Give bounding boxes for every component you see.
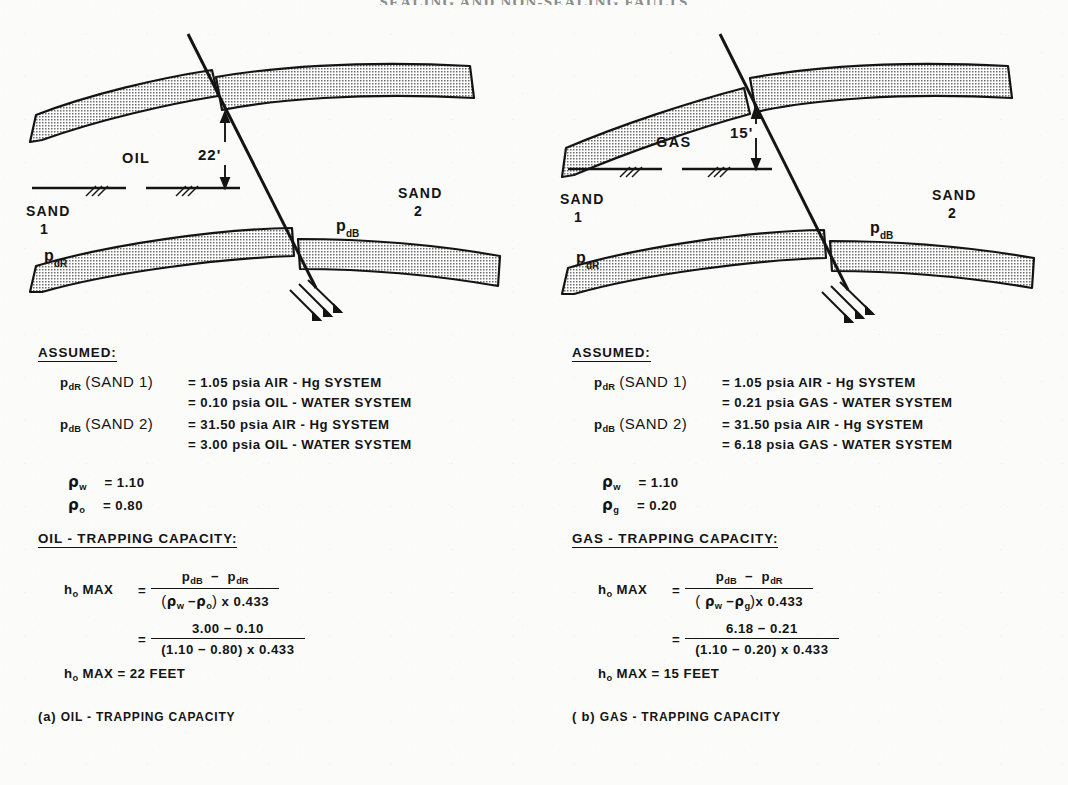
rho-symbol: ρ (602, 496, 613, 514)
cross-section-diagram-oil: OIL 22' SAND 1 SAND 2 p dR p dB (0, 20, 534, 340)
lower-bed-left (30, 228, 294, 292)
density-row: ρg= 0.20 (602, 494, 1068, 517)
assumed-row-cont: = 3.00 psia OIL - WATER SYSTEM (60, 436, 534, 455)
upper-bed-right (216, 64, 474, 110)
assumed-heading: ASSUMED: (38, 345, 117, 362)
equation-label: ho MAX (64, 582, 138, 599)
numeric-equation: = 3.00 − 0.10 (1.10 − 0.80) x 0.433 (64, 621, 534, 657)
panel-oil-trapping: OIL 22' SAND 1 SAND 2 p dR p dB ASSUMED:… (0, 0, 534, 785)
pressure-label-pdb: p dB (870, 219, 893, 241)
density-rows: ρw= 1.10 ρg= 0.20 (602, 471, 1068, 517)
sand-1-number: 1 (40, 221, 48, 237)
symbolic-fraction: pdB − pdR ( ρw −ρg)x 0.433 (685, 569, 813, 611)
density-value: = 1.10 (638, 475, 678, 490)
rho-symbol: ρ (68, 496, 79, 514)
assumed-symbol: pdR (SAND 1) (60, 371, 188, 394)
equals-sign: = (672, 632, 680, 647)
assumed-row: pdR (SAND 1) = 1.05 psia AIR - Hg SYSTEM (60, 371, 534, 394)
assumed-row-cont: = 0.21 psia GAS - WATER SYSTEM (594, 394, 1068, 413)
assumed-value-cont: = 3.00 psia OIL - WATER SYSTEM (188, 436, 412, 455)
svg-text:p: p (870, 219, 880, 236)
sand-2-number: 2 (948, 205, 956, 221)
rho-subscript: w (613, 482, 620, 492)
assumed-row: pdB (SAND 2) = 31.50 psia AIR - Hg SYSTE… (594, 413, 1068, 436)
equation-result: ho MAX = 15 FEET (598, 666, 1068, 683)
assumed-heading: ASSUMED: (572, 345, 651, 362)
rho-symbol: ρ (68, 473, 79, 491)
fraction-denominator: (1.10 − 0.80) x 0.433 (151, 638, 304, 657)
svg-text:p: p (576, 249, 586, 266)
lower-bed-right (830, 241, 1034, 288)
assumed-row-cont: = 6.18 psia GAS - WATER SYSTEM (594, 436, 1068, 455)
fraction-denominator: ( ρw −ρg)x 0.433 (685, 588, 813, 611)
equation-result: ho MAX = 22 FEET (64, 666, 534, 683)
numeric-fraction: 6.18 − 0.21 (1.10 − 0.20) x 0.433 (685, 621, 838, 657)
sand-2-label: SAND (932, 187, 976, 203)
panel-gas-trapping: GAS 15' SAND 1 SAND 2 p dR p dB ASSUMED:… (534, 0, 1068, 785)
assumed-rows: pdR (SAND 1) = 1.05 psia AIR - Hg SYSTEM… (60, 371, 534, 455)
equation-label: ho MAX (598, 582, 672, 599)
capacity-heading: OIL - TRAPPING CAPACITY: (38, 531, 237, 548)
density-value: = 0.80 (103, 498, 143, 513)
symbolic-fraction: pdB − pdR (ρw −ρo) x 0.433 (151, 569, 279, 611)
svg-text:dB: dB (346, 228, 359, 239)
svg-text:p: p (44, 247, 54, 264)
lower-bed-left (562, 230, 826, 294)
assumed-value: = 31.50 psia AIR - Hg SYSTEM (722, 416, 924, 435)
oil-text-block: ASSUMED: pdR (SAND 1) = 1.05 psia AIR - … (38, 345, 534, 724)
assumed-value: = 1.05 psia AIR - Hg SYSTEM (188, 374, 382, 393)
fraction-numerator: pdB − pdR (172, 569, 259, 588)
upper-bed-right (750, 64, 1012, 112)
density-row: ρw= 1.10 (68, 471, 534, 494)
gas-text-block: ASSUMED: pdR (SAND 1) = 1.05 psia AIR - … (572, 345, 1068, 724)
density-value: = 1.10 (104, 475, 144, 490)
figure-caption: ( b) GAS - TRAPPING CAPACITY (572, 709, 1068, 724)
sand-1-label: SAND (560, 191, 604, 207)
pressure-label-pdb: p dB (336, 217, 359, 239)
numeric-fraction: 3.00 − 0.10 (1.10 − 0.80) x 0.433 (151, 621, 304, 657)
density-value: = 0.20 (637, 498, 677, 513)
equals-sign: = (138, 632, 146, 647)
fault-slip-arrows (822, 282, 873, 322)
equals-sign: = (138, 583, 146, 598)
sand-1-number: 1 (574, 209, 582, 225)
svg-text:dR: dR (54, 258, 68, 269)
rho-subscript: w (79, 482, 86, 492)
assumed-value-cont: = 0.21 psia GAS - WATER SYSTEM (722, 394, 953, 413)
assumed-symbol: pdB (SAND 2) (60, 413, 188, 436)
assumed-row-cont: = 0.10 psia OIL - WATER SYSTEM (60, 394, 534, 413)
caption-text: GAS - TRAPPING CAPACITY (600, 710, 781, 724)
density-row: ρo= 0.80 (68, 494, 534, 517)
throw-label: 22' (198, 146, 221, 163)
equation-block: ho MAX = pdB − pdR (ρw −ρo) x 0.433 = 3.… (64, 569, 534, 683)
sand-1-label: SAND (26, 203, 70, 219)
capacity-heading: GAS - TRAPPING CAPACITY: (572, 531, 778, 548)
caption-text: OIL - TRAPPING CAPACITY (61, 710, 236, 724)
fluid-label: GAS (656, 134, 692, 150)
figure-caption: (a) OIL - TRAPPING CAPACITY (38, 709, 534, 724)
fraction-denominator: (ρw −ρo) x 0.433 (151, 588, 279, 611)
assumed-symbol: pdR (SAND 1) (594, 371, 722, 394)
fraction-numerator: 6.18 − 0.21 (716, 621, 808, 638)
svg-text:p: p (336, 217, 346, 234)
equals-sign: = (672, 583, 680, 598)
rho-subscript: g (613, 505, 619, 515)
fluid-label: OIL (122, 150, 150, 166)
symbolic-equation: ho MAX = pdB − pdR (ρw −ρo) x 0.433 (64, 569, 534, 611)
numeric-equation: = 6.18 − 0.21 (1.10 − 0.20) x 0.433 (598, 621, 1068, 657)
throw-label: 15' (730, 124, 753, 141)
rho-subscript: o (79, 505, 85, 515)
svg-text:dB: dB (880, 230, 893, 241)
assumed-row: pdR (SAND 1) = 1.05 psia AIR - Hg SYSTEM (594, 371, 1068, 394)
assumed-value-cont: = 0.10 psia OIL - WATER SYSTEM (188, 394, 412, 413)
caption-prefix: ( b) (572, 709, 595, 724)
svg-text:dR: dR (586, 260, 600, 271)
assumed-rows: pdR (SAND 1) = 1.05 psia AIR - Hg SYSTEM… (594, 371, 1068, 455)
density-row: ρw= 1.10 (602, 471, 1068, 494)
upper-bed-left (30, 70, 218, 142)
caption-prefix: (a) (38, 709, 56, 724)
fraction-numerator: 3.00 − 0.10 (182, 621, 274, 638)
throw-measure-arrow (221, 112, 229, 188)
density-rows: ρw= 1.10 ρo= 0.80 (68, 471, 534, 517)
assumed-value-cont: = 6.18 psia GAS - WATER SYSTEM (722, 436, 953, 455)
